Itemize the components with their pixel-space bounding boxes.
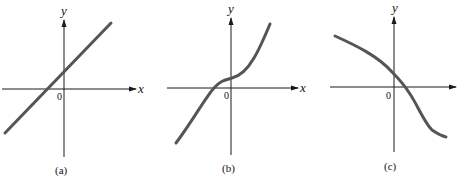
y-label-a: y (59, 3, 67, 18)
caption-c: (c) (384, 160, 397, 173)
panel-a: x y 0 (a) (2, 3, 144, 177)
caption-a: (a) (55, 164, 68, 177)
y-label-c: y (390, 0, 398, 15)
x-label-b: x (299, 80, 306, 95)
figure-canvas: x y 0 (a) x y 0 (b) y 0 (c) (0, 0, 458, 179)
panel-c: y 0 (c) (330, 0, 456, 173)
x-label-a: x (137, 81, 144, 96)
caption-b: (b) (222, 162, 235, 175)
curve-b (176, 24, 270, 143)
origin-label-c: 0 (386, 90, 391, 101)
curve-a (5, 23, 111, 133)
y-label-b: y (226, 1, 234, 16)
origin-label-a: 0 (57, 91, 62, 102)
origin-label-b: 0 (224, 90, 229, 101)
panel-b: x y 0 (b) (167, 1, 306, 175)
